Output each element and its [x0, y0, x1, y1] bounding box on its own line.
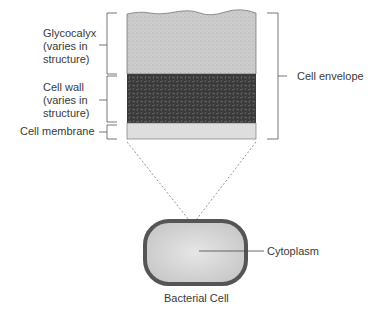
layer-cell-wall [127, 74, 256, 123]
label-line: Cell wall [43, 81, 89, 94]
label-cytoplasm: Cytoplasm [267, 245, 319, 258]
label-cell-envelope: Cell envelope [297, 70, 364, 83]
bracket-glycocalyx [99, 13, 117, 74]
label-cell-membrane: Cell membrane [20, 125, 95, 138]
layer-cell-membrane [127, 123, 256, 139]
label-line: Glycocalyx [43, 27, 96, 40]
label-line: structure) [43, 107, 89, 120]
layer-glycocalyx [127, 10, 256, 74]
caption-bacterial-cell: Bacterial Cell [164, 292, 229, 305]
bracket-cell-wall [99, 76, 117, 122]
bracket-cell-envelope [267, 13, 287, 139]
zoom-lines [127, 142, 256, 220]
label-line: structure) [43, 53, 96, 66]
label-glycocalyx: Glycocalyx (varies in structure) [43, 27, 96, 66]
label-line: Cell membrane [20, 125, 95, 138]
bacterial-cell [145, 221, 246, 284]
label-line: (varies in [43, 40, 96, 53]
label-line: (varies in [43, 94, 89, 107]
label-cell-wall: Cell wall (varies in structure) [43, 81, 89, 120]
bracket-cell-membrane [99, 125, 117, 139]
